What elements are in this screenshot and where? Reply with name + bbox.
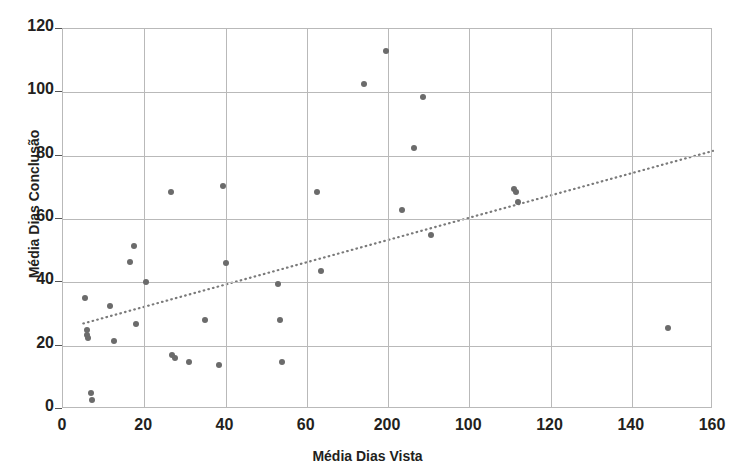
gridline-vertical [388, 29, 389, 407]
data-point [111, 338, 117, 344]
y-axis-tick-mark [55, 345, 62, 346]
x-axis-tick-label: 20 [134, 416, 152, 434]
y-axis-tick-label: 80 [0, 144, 54, 162]
data-point [127, 259, 133, 265]
gridline-vertical [551, 29, 552, 407]
data-point [89, 397, 95, 403]
data-point [665, 325, 671, 331]
y-axis-tick-mark [55, 28, 62, 29]
x-axis-tick-label: 60 [297, 416, 315, 434]
x-axis-tick-label: 120 [536, 416, 563, 434]
data-point [202, 317, 208, 323]
y-axis-label: Média Dias Conclusão [26, 74, 42, 334]
y-axis-tick-label: 100 [0, 80, 54, 98]
data-point [186, 359, 192, 365]
x-axis-tick-label: 200 [374, 416, 401, 434]
data-point [131, 243, 137, 249]
gridline-horizontal [63, 92, 711, 93]
data-point [107, 303, 113, 309]
y-axis-tick-mark [55, 218, 62, 219]
y-axis-tick-label: 60 [0, 207, 54, 225]
data-point [318, 268, 324, 274]
data-point [314, 189, 320, 195]
data-point [277, 317, 283, 323]
gridline-vertical [226, 29, 227, 407]
chart-title [0, 0, 735, 1]
scatter-chart: Média Dias Conclusão Média Dias Vista 02… [0, 0, 735, 475]
y-axis-tick-label: 0 [0, 397, 54, 415]
data-point [411, 145, 417, 151]
x-axis-tick-label: 40 [216, 416, 234, 434]
data-point [82, 295, 88, 301]
gridline-vertical [469, 29, 470, 407]
data-point [515, 199, 521, 205]
data-point [168, 189, 174, 195]
data-point [143, 279, 149, 285]
gridline-vertical [632, 29, 633, 407]
y-axis-tick-mark [55, 91, 62, 92]
data-point [133, 321, 139, 327]
x-axis-tick-label: 100 [455, 416, 482, 434]
gridline-vertical [144, 29, 145, 407]
y-axis-tick-mark [55, 155, 62, 156]
gridline-horizontal [63, 282, 711, 283]
data-point [88, 390, 94, 396]
y-axis-tick-label: 40 [0, 270, 54, 288]
data-point [428, 232, 434, 238]
x-axis-tick-label: 140 [617, 416, 644, 434]
y-axis-tick-label: 120 [0, 17, 54, 35]
x-axis-tick-label: 160 [699, 416, 726, 434]
data-point [279, 359, 285, 365]
gridline-horizontal [63, 156, 711, 157]
data-point [172, 355, 178, 361]
x-axis-label: Média Dias Vista [0, 448, 735, 464]
data-point [275, 281, 281, 287]
data-point [399, 207, 405, 213]
data-point [85, 335, 91, 341]
gridline-horizontal [63, 219, 711, 220]
data-point [420, 94, 426, 100]
gridline-vertical [307, 29, 308, 407]
x-axis-tick-label: 0 [58, 416, 67, 434]
plot-area [62, 28, 712, 408]
data-point [361, 81, 367, 87]
data-point [223, 260, 229, 266]
data-point [513, 189, 519, 195]
data-point [216, 362, 222, 368]
y-axis-tick-mark [55, 408, 62, 409]
y-axis-tick-mark [55, 281, 62, 282]
y-axis-tick-label: 20 [0, 334, 54, 352]
gridline-horizontal [63, 346, 711, 347]
